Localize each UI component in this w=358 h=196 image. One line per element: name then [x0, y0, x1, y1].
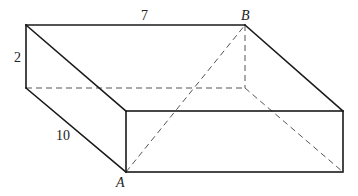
point-b-label: B	[241, 8, 250, 23]
front-face	[126, 111, 343, 172]
top-right-depth-edge	[245, 25, 343, 111]
visible-edges	[26, 25, 343, 172]
bottom-left-depth-edge	[26, 88, 126, 172]
height-label: 2	[14, 50, 21, 65]
space-diagonal-a-to-b	[126, 25, 245, 172]
top-left-depth-edge	[26, 25, 126, 111]
depth-label: 10	[56, 128, 70, 143]
point-a-label: A	[115, 175, 125, 190]
length-label: 7	[141, 8, 148, 23]
rectangular-prism-diagram: 7 B 2 10 A	[0, 0, 358, 196]
hidden-edges	[26, 25, 343, 172]
labels: 7 B 2 10 A	[14, 8, 250, 190]
hidden-bottom-right-depth-edge	[245, 88, 343, 172]
